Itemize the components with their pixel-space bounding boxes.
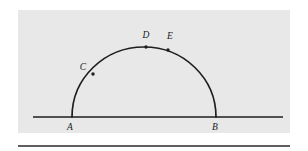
figure-panel bbox=[18, 10, 290, 133]
point-label-a: A bbox=[66, 122, 73, 132]
point-label-b: B bbox=[212, 122, 218, 132]
geometry-figure: ABCDE bbox=[0, 0, 308, 151]
point-label-d: D bbox=[142, 30, 150, 40]
point-marker-c bbox=[91, 72, 94, 75]
point-label-c: C bbox=[80, 62, 87, 72]
point-label-e: E bbox=[166, 31, 173, 41]
point-marker-d bbox=[144, 45, 147, 48]
point-marker-e bbox=[166, 48, 169, 51]
figure-canvas: ABCDE bbox=[0, 0, 308, 151]
